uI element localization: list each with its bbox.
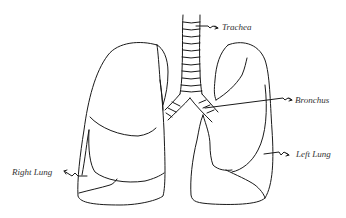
bronchus-label: Bronchus [295,95,329,105]
lung-diagram: Trachea Bronchus Left Lung Right Lung [0,0,346,218]
right-lung-label: Right Lung [12,167,52,177]
lung-illustration [0,0,346,218]
left-lung [191,43,273,205]
bronchi [165,94,218,122]
bronchus-pointer-icon [205,98,292,108]
right-lung-pointer-icon [64,171,87,176]
left-lung-pointer-icon [264,152,289,155]
trachea-label: Trachea [222,22,252,32]
right-lung [78,42,168,205]
trachea [180,15,202,94]
left-lung-label: Left Lung [296,149,331,159]
